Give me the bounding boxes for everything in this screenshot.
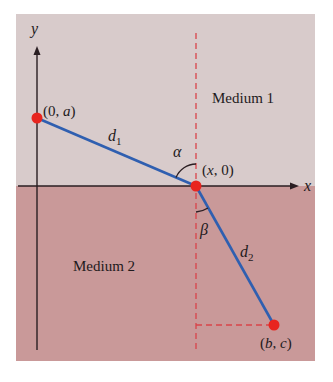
- angle-beta-label: β: [199, 221, 208, 239]
- point-end: [269, 320, 280, 331]
- point-interface: [191, 181, 202, 192]
- point-start: [32, 113, 43, 124]
- x-axis-label: x: [303, 177, 311, 194]
- point-start-label: (0, a): [43, 103, 76, 120]
- point-end-label: (b, c): [260, 335, 292, 352]
- medium-2-label: Medium 2: [73, 258, 135, 274]
- y-axis-label: y: [29, 20, 39, 38]
- medium-1-label: Medium 1: [212, 90, 274, 106]
- refraction-diagram: y x Medium 1 Medium 2 (0, a) (x, 0) (b, …: [0, 0, 333, 382]
- angle-alpha-label: α: [173, 143, 182, 160]
- point-interface-label: (x, 0): [202, 162, 234, 179]
